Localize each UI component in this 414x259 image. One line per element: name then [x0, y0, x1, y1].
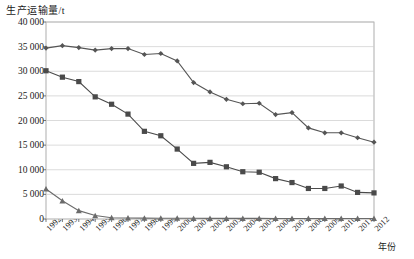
plot-area [0, 0, 414, 259]
chart-container: 生产运输量/t 年份 05 00010 00015 00020 00025 00… [0, 0, 414, 259]
